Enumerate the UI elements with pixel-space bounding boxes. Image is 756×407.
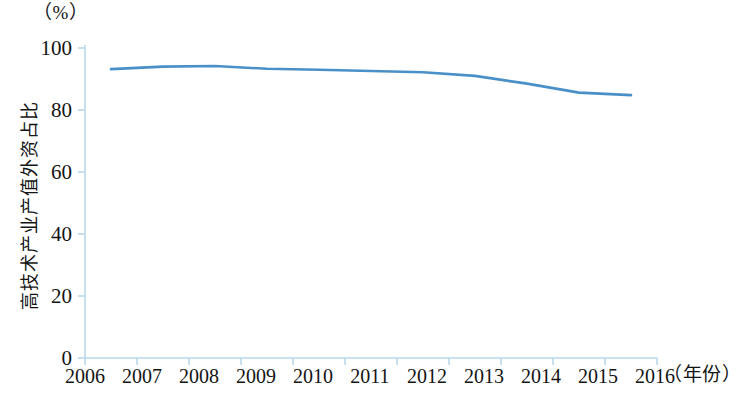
y-axis-ticks	[78, 48, 85, 358]
chart-figure: （%） 高技术产业产值外资占比 100 80 60 40 20 0 2006 2…	[0, 0, 756, 407]
data-series-line	[111, 66, 631, 95]
x-axis-ticks	[85, 358, 657, 365]
plot-area	[0, 0, 756, 407]
